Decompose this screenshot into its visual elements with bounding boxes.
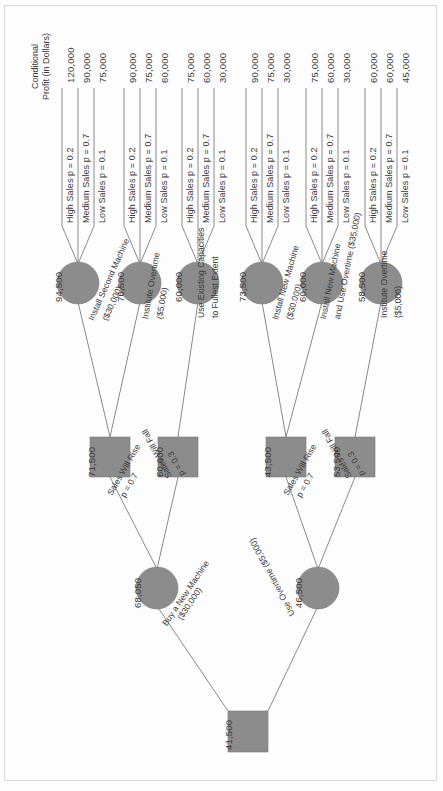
outcome-payoff: 60,000 (160, 53, 170, 83)
outcome-payoff: 75,000 (98, 53, 108, 83)
outcome-payoff: 60,000 (369, 53, 379, 83)
outcome-branch-label: High Sales p = 0.2 (369, 147, 378, 223)
outcome-payoff: 75,000 (186, 53, 196, 83)
outcome-payoff: 60,000 (385, 53, 395, 83)
chance-node-value: 60,000 (174, 272, 184, 302)
outcome-branch-label: Medium Sales p = 0.7 (82, 134, 91, 223)
decision-edge-cost: to Fullest Extent (210, 256, 220, 318)
chance-node-value: 58,500 (357, 272, 367, 302)
decision-node-value: 43,500 (263, 447, 273, 477)
decision-tree-page: Conditional Profit (in Dollars) 120,000H… (0, 0, 443, 791)
state-node-value: 46,500 (294, 578, 304, 608)
tree-nodes (57, 262, 402, 752)
outcome-branch-label: High Sales p = 0.2 (186, 147, 195, 223)
outcome-branch-label: High Sales p = 0.2 (128, 147, 137, 223)
outcome-payoff: 30,000 (218, 53, 228, 83)
decision-edge-label: Use Existing Capacities (196, 228, 206, 318)
outcome-payoff: 60,000 (202, 53, 212, 83)
root-node-value: 41,500 (224, 720, 234, 750)
outcome-payoff: 90,000 (250, 53, 260, 83)
outcome-branch-label: Medium Sales p = 0.7 (144, 134, 153, 223)
outcome-payoff: 60,000 (326, 53, 336, 83)
decision-node-value: 71,500 (87, 447, 97, 477)
chart-header: Conditional Profit (in Dollars) (30, 33, 53, 100)
outcome-payoff: 75,000 (144, 53, 154, 83)
outcome-branch-label: High Sales p = 0.2 (66, 147, 75, 223)
decision-tree-graphic (0, 0, 443, 791)
outcome-branch-label: Low Sales p = 0.1 (160, 150, 169, 224)
outcome-branch-label: Low Sales p = 0.1 (218, 150, 227, 224)
outcome-branch-label: Low Sales p = 0.1 (342, 150, 351, 224)
outcome-payoff: 30,000 (282, 53, 292, 83)
decision-edge-label: Institute Overtime (379, 251, 389, 318)
decision-edge-cost: ($5,000) (393, 286, 403, 318)
state-node-value: 68,050 (133, 578, 143, 608)
outcome-branch-label: Medium Sales p = 0.7 (385, 134, 394, 223)
outcome-branch-label: Low Sales p = 0.1 (282, 150, 291, 224)
outcome-branch-label: High Sales p = 0.2 (310, 147, 319, 223)
outcome-branch-label: Low Sales p = 0.1 (98, 150, 107, 224)
outcome-payoff: 45,000 (401, 53, 411, 83)
chance-node-value: 94,500 (54, 272, 64, 302)
outcome-branch-label: Medium Sales p = 0.7 (266, 134, 275, 223)
header-line-2: Profit (in Dollars) (41, 33, 52, 100)
outcome-payoff: 90,000 (82, 53, 92, 83)
outcome-branch-label: High Sales p = 0.2 (250, 147, 259, 223)
outcome-payoff: 75,000 (266, 53, 276, 83)
chance-node-value: 73,500 (238, 272, 248, 302)
outcome-branch-label: Low Sales p = 0.1 (401, 150, 410, 224)
outcome-payoff: 120,000 (66, 47, 76, 83)
outcome-payoff: 75,000 (310, 53, 320, 83)
outcome-payoff: 30,000 (342, 53, 352, 83)
outcome-branch-label: Medium Sales p = 0.7 (202, 134, 211, 223)
outcome-branch-label: Medium Sales p = 0.7 (326, 134, 335, 223)
outcome-payoff: 90,000 (128, 53, 138, 83)
header-line-1: Conditional (30, 33, 41, 100)
